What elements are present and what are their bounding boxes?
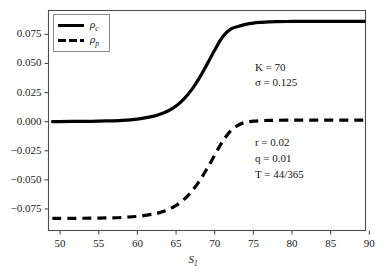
annotation-line: T = 44/365: [255, 167, 304, 183]
y-tick-label: −0.025: [11, 145, 42, 156]
annotation-line: σ = 0.125: [255, 75, 297, 91]
legend-entry-rho-c: ρc: [58, 18, 104, 33]
legend-label-rho-p: ρp: [90, 34, 99, 48]
annotation-line: K = 70: [255, 60, 297, 76]
y-tick-label: 0.075: [17, 28, 42, 39]
annotation-params-bottom: r = 0.02q = 0.01T = 44/365: [255, 135, 304, 183]
chart-figure: 0.0750.0500.0250.000−0.025−0.050−0.075 5…: [0, 0, 386, 276]
legend-swatch-solid: [58, 21, 84, 31]
x-tick-label: 75: [233, 238, 273, 249]
y-tick-label: −0.050: [11, 174, 42, 185]
legend-swatch-dashed: [58, 36, 84, 46]
x-tick-label: 65: [156, 238, 196, 249]
y-tick-label: 0.025: [17, 87, 42, 98]
y-tick-marks: [45, 34, 49, 209]
x-tick-label: 50: [40, 238, 80, 249]
x-tick-label: 85: [311, 238, 351, 249]
legend: ρc ρp: [53, 14, 110, 52]
x-tick-label: 55: [79, 238, 119, 249]
y-tick-label: −0.075: [11, 203, 42, 214]
x-tick-marks: [60, 231, 369, 235]
annotation-params-top: K = 70σ = 0.125: [255, 60, 297, 92]
annotation-line: q = 0.01: [255, 151, 304, 167]
x-tick-label: 70: [195, 238, 235, 249]
x-axis-label-subscript: 1: [194, 259, 198, 268]
y-tick-label: 0.050: [17, 57, 42, 68]
legend-label-rho-c: ρc: [90, 19, 99, 33]
x-tick-label: 90: [349, 238, 386, 249]
x-axis-label: S1: [0, 254, 386, 268]
x-tick-label: 60: [117, 238, 157, 249]
y-tick-label: 0.000: [17, 116, 42, 127]
legend-entry-rho-p: ρp: [58, 33, 104, 48]
annotation-line: r = 0.02: [255, 135, 304, 151]
x-tick-label: 80: [272, 238, 312, 249]
